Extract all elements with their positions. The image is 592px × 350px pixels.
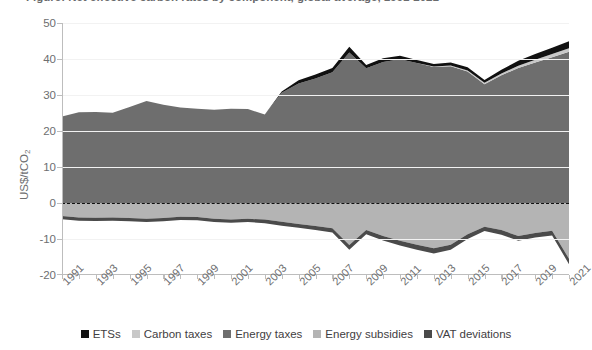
x-axis-labels: 1991199319951997199920012003200520072009… <box>62 279 582 325</box>
plot-area <box>62 23 569 275</box>
y-tick-label: 30 <box>20 89 56 101</box>
y-axis-tick <box>57 239 62 240</box>
chart-root: Figure: Net effective carbon rates by co… <box>0 0 592 350</box>
y-tick-label: -10 <box>20 233 56 245</box>
legend-item-vat-deviations[interactable]: VAT deviations <box>424 328 511 340</box>
y-axis-tick <box>57 23 62 24</box>
legend-swatch-energy-subsidies <box>313 330 321 338</box>
legend-swatch-carbon-taxes <box>132 330 140 338</box>
chart-title-clipped: Figure: Net effective carbon rates by co… <box>26 0 566 3</box>
y-axis-tick <box>57 167 62 168</box>
legend-item-energy-taxes[interactable]: Energy taxes <box>223 328 302 340</box>
legend-label-etss: ETSs <box>93 328 121 340</box>
legend-swatch-energy-taxes <box>223 330 231 338</box>
legend-item-carbon-taxes[interactable]: Carbon taxes <box>132 328 212 340</box>
gridline <box>62 95 569 96</box>
gridline <box>62 59 569 60</box>
y-axis-title: US$/tCO2 <box>18 150 30 200</box>
legend-swatch-etss <box>81 330 89 338</box>
x-tick-label: 2021 <box>567 262 592 288</box>
y-tick-label: 50 <box>20 17 56 29</box>
y-axis-title-text: US$/tCO <box>18 154 30 200</box>
chart-legend: ETSs Carbon taxes Energy taxes Energy su… <box>0 325 592 343</box>
legend-label-energy-subsidies: Energy subsidies <box>325 328 413 340</box>
gridline <box>62 167 569 168</box>
y-axis-tick <box>57 59 62 60</box>
chart-title-text: Figure: Net effective carbon rates by co… <box>26 0 566 3</box>
gridline <box>62 23 569 24</box>
y-tick-label: 20 <box>20 125 56 137</box>
y-axis-line <box>62 23 63 275</box>
gridline <box>62 131 569 132</box>
gridline <box>62 239 569 240</box>
legend-item-etss[interactable]: ETSs <box>81 328 121 340</box>
plot-frame <box>62 23 569 275</box>
y-axis-tick <box>57 203 62 204</box>
y-axis-title-subscript: 2 <box>23 150 32 154</box>
legend-swatch-vat-deviations <box>424 330 432 338</box>
area-band-energy-taxes <box>62 52 569 203</box>
y-axis-tick <box>57 95 62 96</box>
y-axis-tick <box>57 131 62 132</box>
legend-label-carbon-taxes: Carbon taxes <box>144 328 212 340</box>
zero-reference-line <box>62 203 569 204</box>
legend-label-energy-taxes: Energy taxes <box>235 328 302 340</box>
y-tick-label: -20 <box>20 269 56 281</box>
y-tick-label: 40 <box>20 53 56 65</box>
stacked-area-plot <box>62 23 569 275</box>
legend-item-energy-subsidies[interactable]: Energy subsidies <box>313 328 413 340</box>
legend-label-vat-deviations: VAT deviations <box>436 328 511 340</box>
